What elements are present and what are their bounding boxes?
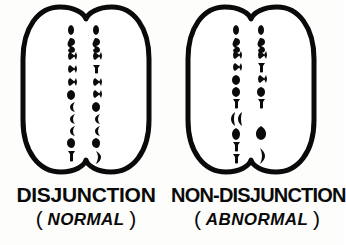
paren-close: )	[129, 207, 136, 230]
caption-disjunction-sub-text: NORMAL	[48, 210, 125, 229]
caption-disjunction-text: DISJUNCTION	[16, 183, 155, 206]
panel-non-disjunction: NON-DISJUNCTION ( ABNORMAL )	[171, 0, 343, 245]
caption-non-disjunction-sub: ( ABNORMAL )	[171, 208, 343, 231]
cell-outline	[23, 7, 149, 172]
paren-open: (	[194, 207, 201, 230]
caption-non-disjunction-text: NON-DISJUNCTION	[171, 184, 346, 206]
caption-non-disjunction: NON-DISJUNCTION	[171, 183, 343, 207]
paren-open: (	[36, 207, 43, 230]
caption-disjunction-sub: ( NORMAL )	[0, 208, 172, 231]
cell-diagram-normal	[0, 0, 172, 180]
caption-non-disjunction-sub-text: ABNORMAL	[206, 210, 308, 229]
caption-disjunction: DISJUNCTION	[0, 183, 172, 207]
panel-disjunction: DISJUNCTION ( NORMAL )	[0, 0, 172, 245]
cell-outline	[188, 7, 314, 172]
cell-diagram-abnormal	[171, 0, 343, 180]
paren-close: )	[313, 207, 320, 230]
